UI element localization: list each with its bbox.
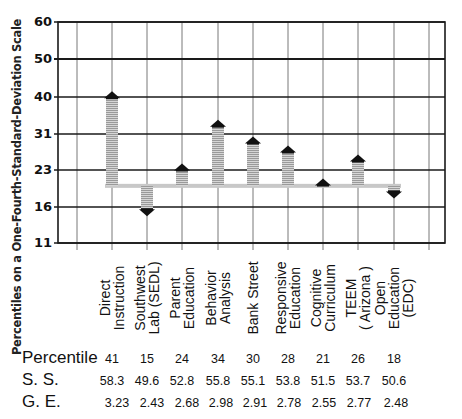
table-cell: 50.6	[374, 374, 414, 388]
table-cell: 2.43	[132, 396, 172, 410]
y-tick-label: 11	[28, 235, 52, 250]
table-cell: 18	[374, 352, 414, 366]
table-cell: 58.3	[92, 374, 132, 388]
table-cell: 3.23	[97, 396, 137, 410]
x-category-label: Responsive Education	[274, 261, 302, 334]
x-category: Open Education (EDC)	[377, 252, 411, 344]
table-cell: 41	[92, 352, 132, 366]
x-category-label: Bank Street	[246, 261, 260, 334]
y-tick-label: 50	[28, 51, 52, 66]
arrow-marker	[245, 137, 261, 186]
table-row-label: G. E.	[22, 392, 61, 412]
table-cell: 15	[127, 352, 167, 366]
x-category-label: Southwest Lab (SEDL)	[133, 261, 161, 334]
x-category: TEEM ( Arizona )	[341, 252, 375, 344]
x-category: Cognitive Curriculum	[306, 252, 340, 344]
table-cell: 2.55	[304, 396, 344, 410]
x-category: Behavior Analysis	[201, 252, 235, 344]
x-category: Bank Street	[236, 252, 270, 344]
y-tick-label: 23	[28, 162, 52, 177]
x-category: Parent Education	[165, 252, 199, 344]
x-category: Southwest Lab (SEDL)	[130, 252, 164, 344]
arrow-marker	[174, 164, 190, 186]
x-category-label: Cognitive Curriculum	[309, 264, 337, 332]
x-category-label: Direct Instruction	[98, 266, 126, 331]
arrow-marker	[280, 146, 296, 186]
table-cell: 30	[233, 352, 273, 366]
x-category-label: TEEM ( Arizona )	[344, 266, 372, 330]
x-category-label: Parent Education	[168, 267, 196, 329]
table-cell: 55.1	[233, 374, 273, 388]
table-cell: 34	[198, 352, 238, 366]
y-tick-label: 16	[28, 199, 52, 214]
y-axis-title-wrap: Percentiles on a One-Fourth-Standard-Dev…	[6, 22, 28, 352]
table-cell: 2.48	[376, 396, 416, 410]
y-tick-label: 60	[28, 14, 52, 29]
table-cell: 53.7	[338, 374, 378, 388]
table-row-label: Percentile	[22, 348, 98, 368]
arrow-marker	[210, 120, 226, 186]
y-tick-label: 31	[28, 126, 52, 141]
table-cell: 28	[268, 352, 308, 366]
table-cell: 26	[338, 352, 378, 366]
table-cell: 2.77	[339, 396, 379, 410]
arrow-marker	[139, 186, 155, 216]
table-cell: 53.8	[268, 374, 308, 388]
x-category: Responsive Education	[271, 252, 305, 344]
x-category-label: Open Education (EDC)	[373, 267, 415, 329]
table-cell: 55.8	[198, 374, 238, 388]
table-cell: 52.8	[162, 374, 202, 388]
y-axis-title: Percentiles on a One-Fourth-Standard-Dev…	[10, 19, 24, 355]
table-cell: 49.6	[127, 374, 167, 388]
x-category-label: Behavior Analysis	[204, 270, 232, 325]
arrow-marker	[315, 179, 331, 187]
x-category: Direct Instruction	[95, 252, 129, 344]
table-cell: 24	[162, 352, 202, 366]
arrow-marker	[104, 91, 120, 186]
arrow-marker	[350, 155, 366, 186]
table-row-label: S. S.	[22, 370, 59, 390]
table-cell: 21	[303, 352, 343, 366]
arrow-marker	[386, 186, 402, 199]
table-cell: 51.5	[303, 374, 343, 388]
chart-plot-area	[0, 0, 462, 260]
table-cell: 2.78	[269, 396, 309, 410]
vertical-gridlines	[77, 22, 429, 250]
y-tick-label: 40	[28, 89, 52, 104]
